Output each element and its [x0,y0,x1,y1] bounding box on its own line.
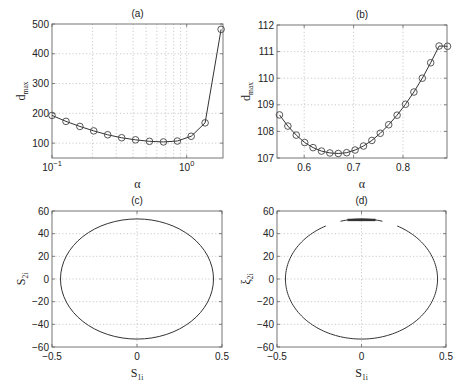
y-tick-label: 400 [32,48,49,59]
x-tick-label: 0.6 [297,162,311,173]
x-axis-label: α [359,177,366,191]
x-tick-label: 0 [359,351,365,362]
y-tick-label: 500 [32,19,49,30]
x-tick-label: 100 [179,159,194,173]
y-tick-label: −20 [32,296,49,307]
panel-title: (a) [131,8,143,19]
grid [52,211,222,347]
x-tick-label: −0.5 [267,351,287,362]
grid [277,25,447,158]
y-tick-label: 60 [263,206,275,217]
panel-c: −60−40−200204060−0.500.5(c)S1iS2i [14,195,229,382]
data-series [276,43,451,157]
y-tick-label: 111 [259,46,275,57]
x-axis-label: α [134,177,141,191]
y-tick-label: 110 [258,73,274,84]
y-axis-label: dmax [14,81,30,100]
axes-box [277,25,447,158]
y-tick-label: 0 [43,274,49,285]
panel-d: −60−40−200204060−0.500.5(d)S1iξ2i [239,195,453,382]
x-tick-label: −0.5 [42,351,62,362]
panel-b: 1071081091101111120.60.70.8(b)αdmax [239,9,451,191]
y-axis-label: ξ2i [239,273,255,284]
y-tick-label: −20 [257,296,274,307]
y-tick-label: 107 [257,153,274,164]
data-series [49,26,225,145]
panel-title: (c) [131,195,143,206]
y-tick-label: 40 [38,228,50,239]
x-tick-label: 0 [134,351,140,362]
x-tick-label: 0.5 [215,351,229,362]
y-tick-label: 300 [32,78,49,89]
x-tick-label: 10−1 [42,159,62,173]
y-tick-label: 40 [263,228,275,239]
y-tick-label: 20 [38,251,50,262]
y-tick-label: −40 [32,319,49,330]
y-tick-label: 200 [32,108,49,119]
x-tick-label: 0.8 [396,162,410,173]
y-tick-label: 100 [32,138,49,149]
x-tick-label: 0.7 [347,162,361,173]
figure: 10020030040050010−1100(a)αdmax1071081091… [0,0,465,391]
grid [277,211,446,347]
x-axis-label: S1i [131,366,144,382]
y-tick-label: 60 [38,206,50,217]
panel-a: 10020030040050010−1100(a)αdmax [14,8,224,191]
y-tick-label: 20 [263,251,275,262]
y-tick-label: 109 [257,99,274,110]
x-axis-label: S1i [355,366,368,382]
x-tick-label: 0.5 [439,351,453,362]
y-tick-label: −40 [257,319,274,330]
y-axis-label: S2i [14,273,30,286]
y-tick-label: 0 [268,274,274,285]
axes-box [52,24,223,158]
panel-title: (b) [356,9,368,20]
y-tick-label: 112 [258,20,274,31]
panel-title: (d) [355,195,367,206]
grid [52,24,223,158]
y-axis-label: dmax [239,82,255,101]
y-tick-label: 108 [257,126,274,137]
